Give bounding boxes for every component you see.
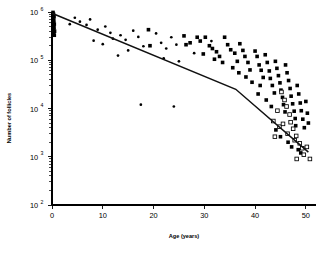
- data-point-filled-square: [288, 87, 292, 91]
- data-point-filled-square: [285, 71, 289, 75]
- regression-line: [52, 13, 308, 152]
- chart-svg: 102103104105106 01020304050 Age (years) …: [0, 0, 326, 253]
- data-point-filled-square: [261, 76, 265, 80]
- data-point-dot: [178, 60, 181, 63]
- data-point-filled-square: [264, 98, 268, 102]
- data-point-dot: [119, 34, 122, 37]
- data-point-filled-square: [256, 92, 260, 96]
- data-point-dot: [124, 38, 127, 41]
- data-point-filled-square: [297, 92, 301, 96]
- follicle-decline-chart: 102103104105106 01020304050 Age (years) …: [0, 0, 326, 253]
- data-point-filled-square: [290, 145, 294, 149]
- data-point-open-square: [276, 109, 280, 113]
- data-point-dot: [170, 36, 173, 39]
- data-point-dot: [96, 28, 99, 31]
- data-point-dot: [101, 43, 104, 46]
- data-point-filled-square: [246, 61, 250, 65]
- x-tick-label: 30: [200, 211, 208, 220]
- data-point-filled-square: [236, 60, 240, 64]
- data-point-filled-square: [278, 81, 282, 85]
- data-point-open-square: [308, 157, 312, 161]
- data-point-filled-square: [148, 44, 152, 48]
- data-point-filled-square: [263, 53, 267, 57]
- data-point-filled-square: [241, 49, 245, 53]
- data-point-filled-square: [269, 77, 273, 81]
- data-point-filled-square: [198, 39, 202, 43]
- x-tick-label: 20: [149, 211, 157, 220]
- data-point-filled-square: [184, 43, 188, 47]
- x-axis-tick-labels: 01020304050: [50, 211, 310, 220]
- data-point-filled-square: [287, 79, 291, 83]
- data-point-filled-square: [292, 109, 296, 113]
- data-point-filled-square: [223, 35, 227, 39]
- x-axis-ticks: [52, 205, 306, 209]
- data-point-filled-square: [291, 102, 295, 106]
- data-point-filled-square: [221, 61, 225, 65]
- data-point-filled-square: [307, 121, 311, 125]
- data-point-filled-square: [237, 71, 241, 75]
- data-point-filled-square: [279, 135, 283, 139]
- data-point-filled-square: [273, 91, 277, 95]
- series-filled-squares: [51, 11, 310, 155]
- data-point-open-square: [285, 105, 289, 109]
- data-point-dot: [85, 24, 88, 27]
- series-small-dots: [68, 16, 212, 107]
- data-point-filled-square: [218, 55, 222, 59]
- data-point-dot: [142, 45, 145, 48]
- y-axis-tick-labels: 102103104105106: [30, 6, 44, 211]
- data-point-dot: [172, 105, 175, 108]
- data-point-filled-square: [303, 126, 307, 130]
- data-point-filled-square: [215, 50, 219, 54]
- data-point-dot: [127, 49, 130, 52]
- y-tick-label: 10: [30, 56, 38, 65]
- data-point-filled-square: [296, 148, 300, 152]
- data-point-filled-square: [274, 60, 278, 64]
- data-point-filled-square: [299, 109, 303, 113]
- data-point-filled-square: [259, 68, 263, 72]
- data-point-dot: [139, 103, 142, 106]
- data-point-filled-square: [211, 47, 215, 51]
- data-point-dot: [193, 52, 196, 55]
- data-point-filled-square: [295, 84, 299, 88]
- data-point-dot: [160, 41, 163, 44]
- data-point-filled-square: [293, 117, 297, 121]
- data-point-open-square: [302, 153, 306, 157]
- data-point-dot: [137, 36, 140, 39]
- data-point-open-square: [273, 135, 277, 139]
- data-point-dot: [68, 23, 71, 26]
- y-tick-label: 10: [30, 201, 38, 210]
- data-point-filled-square: [301, 117, 305, 121]
- data-point-filled-square: [270, 105, 274, 109]
- data-point-filled-square: [182, 34, 186, 38]
- y-tick-exponent: 5: [41, 54, 44, 60]
- data-point-filled-square: [233, 51, 237, 55]
- data-point-filled-square: [52, 33, 56, 37]
- data-point-open-square: [280, 90, 284, 94]
- y-tick-label: 10: [30, 153, 38, 162]
- data-point-filled-square: [226, 43, 230, 47]
- data-point-filled-square: [204, 35, 208, 39]
- data-point-open-square: [289, 120, 293, 124]
- data-point-filled-square: [283, 110, 287, 114]
- data-point-dot: [92, 39, 95, 42]
- y-axis-ticks: [48, 12, 53, 205]
- data-point-filled-square: [274, 128, 278, 132]
- data-point-open-square: [294, 134, 298, 138]
- data-point-filled-square: [244, 75, 248, 79]
- data-point-filled-square: [213, 57, 217, 61]
- data-point-dot: [109, 31, 112, 34]
- data-point-filled-square: [257, 63, 261, 67]
- y-tick-label: 10: [30, 105, 38, 114]
- x-tick-label: 40: [251, 211, 259, 220]
- data-points-layer: [51, 11, 311, 161]
- y-axis-title: Number of follicles: [6, 93, 12, 143]
- data-point-filled-square: [229, 48, 233, 52]
- x-tick-label: 10: [99, 211, 107, 220]
- y-tick-exponent: 2: [41, 199, 44, 205]
- x-tick-label: 0: [50, 211, 54, 220]
- data-point-filled-square: [201, 52, 205, 56]
- y-tick-label: 10: [30, 8, 38, 17]
- data-point-filled-square: [253, 49, 257, 53]
- data-point-dot: [117, 54, 120, 57]
- data-point-filled-square: [250, 80, 254, 84]
